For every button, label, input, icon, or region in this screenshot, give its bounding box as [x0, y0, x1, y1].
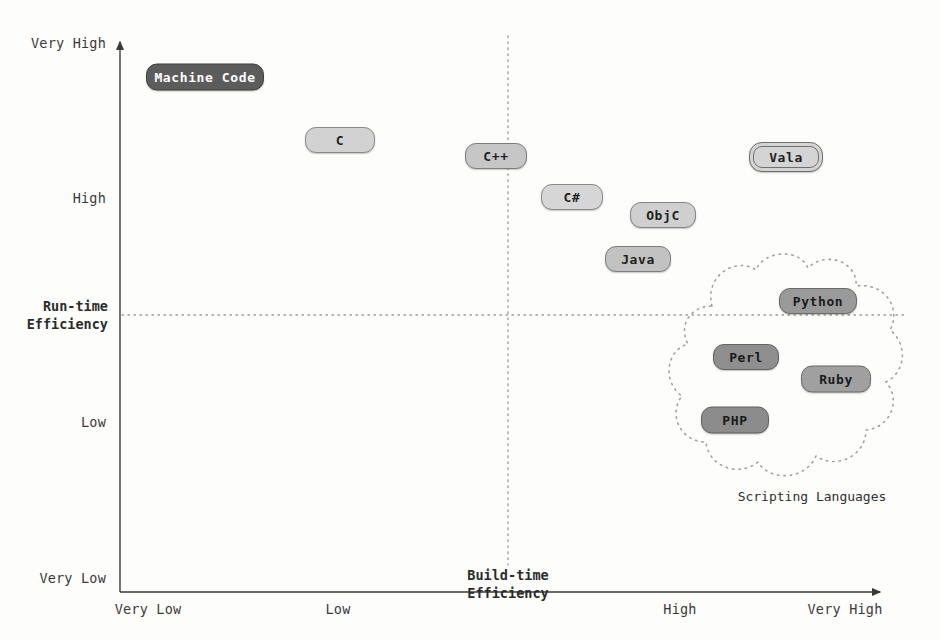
node-objc[interactable]: ObjC — [630, 202, 696, 228]
y-tick-high: High — [0, 189, 106, 207]
y-tick-very-low: Very Low — [0, 569, 106, 587]
node-label: Vala — [753, 146, 819, 168]
chart-canvas: Very High High Low Very Low Run-time Eff… — [0, 0, 940, 640]
y-tick-low: Low — [0, 413, 106, 431]
node-label: C++ — [483, 149, 508, 164]
y-axis-title: Run-time Efficiency — [0, 297, 108, 333]
y-tick-very-high: Very High — [0, 34, 106, 52]
node-label: Python — [793, 294, 844, 309]
node-php[interactable]: PHP — [701, 407, 769, 434]
scripting-languages-cloud — [660, 248, 912, 488]
axes-layer — [0, 0, 940, 640]
node-cpp[interactable]: C++ — [465, 143, 527, 169]
x-tick-very-high: Very High — [808, 600, 883, 618]
x-tick-low: Low — [326, 600, 351, 618]
node-label: PHP — [722, 413, 747, 428]
node-csharp[interactable]: C# — [541, 184, 603, 210]
node-ruby[interactable]: Ruby — [801, 366, 871, 393]
node-machine-code[interactable]: Machine Code — [146, 64, 264, 91]
node-label: C# — [564, 190, 581, 205]
x-tick-high: High — [663, 600, 696, 618]
node-perl[interactable]: Perl — [713, 344, 779, 370]
node-c[interactable]: C — [305, 127, 375, 153]
node-label: Machine Code — [154, 70, 255, 85]
node-python[interactable]: Python — [779, 288, 857, 314]
node-label: Ruby — [819, 372, 853, 387]
node-label: Java — [621, 252, 655, 267]
x-axis-title: Build-time Efficiency — [467, 566, 548, 602]
node-vala[interactable]: Vala — [749, 142, 823, 172]
node-label: Perl — [729, 350, 763, 365]
node-java[interactable]: Java — [605, 246, 671, 272]
node-label: ObjC — [646, 208, 680, 223]
x-tick-very-low: Very Low — [115, 600, 182, 618]
scripting-languages-label: Scripting Languages — [738, 489, 887, 504]
node-label: C — [336, 133, 344, 148]
